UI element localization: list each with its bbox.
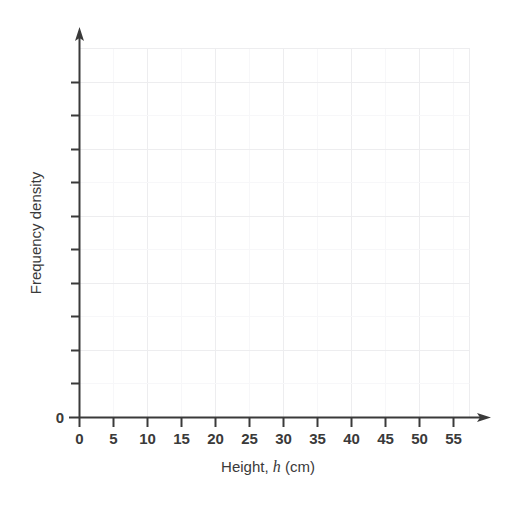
x-tick-label: 40 — [343, 430, 360, 447]
x-tick-label: 35 — [309, 430, 326, 447]
y-tick-label-0: 0 — [56, 409, 64, 426]
x-tick-label: 55 — [445, 430, 462, 447]
frequency-density-chart: 0 Frequency density 0 — [0, 0, 514, 505]
x-tick-label: 15 — [173, 430, 190, 447]
x-axis-title-prefix: Height, — [221, 458, 273, 475]
chart-container: 0 Frequency density 0 — [0, 0, 514, 505]
x-tick-label: 0 — [75, 430, 83, 447]
x-tick-label: 45 — [377, 430, 394, 447]
x-tick-label: 5 — [109, 430, 117, 447]
x-tick-label: 20 — [207, 430, 224, 447]
x-tick-label: 10 — [139, 430, 156, 447]
y-axis-title: Frequency density — [27, 171, 44, 294]
x-axis-title: Height, h (cm) — [221, 458, 315, 475]
x-tick-label: 30 — [275, 430, 292, 447]
x-tick-label: 25 — [241, 430, 258, 447]
x-axis-title-symbol: h — [273, 458, 281, 475]
x-tick-label: 50 — [411, 430, 428, 447]
x-axis-title-suffix: (cm) — [281, 458, 315, 475]
